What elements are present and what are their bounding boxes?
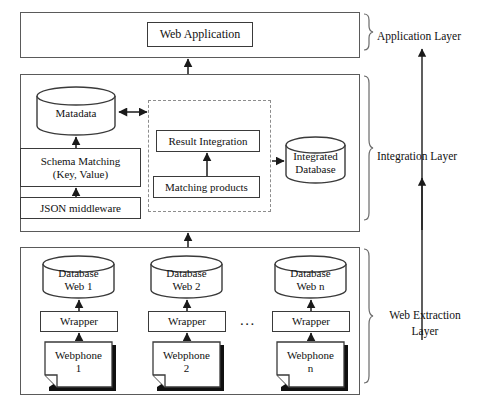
webphone-n-document: Webphone n — [276, 341, 352, 391]
webphone-2-document: Webphone 2 — [152, 341, 228, 391]
application-layer-label: Application Layer — [377, 29, 461, 45]
result-integration-label: Result Integration — [168, 135, 247, 147]
json-middleware-label: JSON middleware — [40, 202, 121, 214]
web-extraction-layer-label-line2: Layer — [412, 325, 439, 337]
wrapper-1-node: Wrapper — [40, 311, 118, 332]
webphone-1-document: Webphone 1 — [44, 341, 120, 391]
result-integration-node: Result Integration — [156, 130, 260, 152]
webphone-2-label-line1: Webphone — [163, 349, 210, 362]
wrapper-2-label: Wrapper — [168, 315, 206, 327]
database-web-n-label-line2: Web n — [296, 280, 324, 292]
webphone-n-label-line2: n — [308, 362, 314, 375]
database-web-n: Database Web n — [274, 255, 347, 299]
matching-products-node: Matching products — [153, 176, 260, 198]
wrapper-1-label: Wrapper — [60, 315, 98, 327]
web-extraction-layer-label-line1: Web Extraction — [389, 309, 461, 321]
integrated-database-label-line2: Database — [295, 163, 335, 175]
schema-matching-node: Schema Matching (Key, Value) — [20, 148, 141, 187]
database-web-2-label-line2: Web 2 — [172, 280, 200, 292]
webphone-n-label-line1: Webphone — [287, 349, 334, 362]
database-web-2: Database Web 2 — [150, 255, 223, 299]
integrated-database-label-line1: Integrated — [293, 150, 338, 162]
integration-layer-label: Integration Layer — [377, 149, 457, 165]
json-middleware-node: JSON middleware — [20, 197, 141, 219]
metadata-database: Matadata — [36, 86, 116, 136]
matching-products-label: Matching products — [165, 181, 248, 193]
integrated-database: Integrated Database — [285, 136, 346, 184]
wrapper-2-node: Wrapper — [148, 311, 226, 332]
web-extraction-layer-label: Web Extraction Layer — [377, 308, 473, 339]
wrapper-n-node: Wrapper — [272, 311, 350, 332]
schema-matching-label-line2: (Key, Value) — [53, 168, 108, 180]
database-web-2-label-line1: Database — [166, 267, 206, 279]
database-web-1: Database Web 1 — [42, 255, 115, 299]
webphone-1-label-line1: Webphone — [55, 349, 102, 362]
metadata-label: Matadata — [56, 107, 97, 119]
schema-matching-label-line1: Schema Matching — [41, 155, 121, 167]
web-application-node: Web Application — [147, 22, 253, 47]
webphone-1-label-line2: 1 — [76, 362, 82, 375]
web-application-label: Web Application — [160, 27, 241, 42]
columns-ellipsis: ... — [240, 312, 256, 329]
wrapper-n-label: Wrapper — [292, 315, 330, 327]
database-web-n-label-line1: Database — [290, 267, 330, 279]
database-web-1-label-line1: Database — [58, 267, 98, 279]
architecture-diagram: Web Application Matadata Schema Matching… — [0, 0, 485, 412]
webphone-2-label-line2: 2 — [184, 362, 190, 375]
database-web-1-label-line2: Web 1 — [64, 280, 92, 292]
